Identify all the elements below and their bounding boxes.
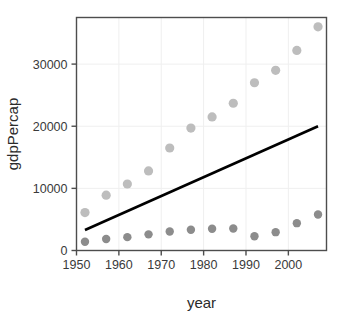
- data-point: [293, 219, 301, 227]
- data-point: [102, 191, 111, 200]
- data-point: [250, 232, 258, 240]
- data-point: [250, 78, 259, 87]
- x-axis-tick-label: 1950: [63, 258, 91, 272]
- y-axis-tick-label: 20000: [33, 120, 68, 134]
- y-axis-title: gdpPercap: [4, 98, 21, 171]
- data-point: [166, 227, 174, 235]
- chart-container: 0100002000030000195019601970198019902000…: [0, 0, 339, 316]
- data-point: [102, 235, 110, 243]
- scatter-plot: 0100002000030000195019601970198019902000…: [0, 0, 339, 316]
- x-axis-tick-label: 1990: [232, 258, 260, 272]
- data-point: [229, 99, 238, 108]
- plot-panel-background: [77, 18, 327, 251]
- data-point: [313, 22, 322, 31]
- data-point: [144, 230, 152, 238]
- data-point: [292, 46, 301, 55]
- data-point: [80, 208, 89, 217]
- x-axis-title: year: [187, 294, 216, 311]
- data-point: [81, 238, 89, 246]
- data-point: [229, 224, 237, 232]
- data-point: [207, 112, 216, 121]
- data-point: [186, 123, 195, 132]
- data-point: [165, 143, 174, 152]
- data-point: [271, 228, 279, 236]
- y-axis-tick-label: 30000: [33, 58, 68, 72]
- data-point: [123, 179, 132, 188]
- x-axis-tick-label: 2000: [274, 258, 302, 272]
- data-point: [187, 225, 195, 233]
- data-point: [271, 66, 280, 75]
- y-axis-tick-label: 10000: [33, 182, 68, 196]
- data-point: [314, 210, 322, 218]
- y-axis-tick-label: 0: [61, 244, 68, 258]
- data-point: [144, 166, 153, 175]
- x-axis-tick-label: 1960: [105, 258, 133, 272]
- data-point: [123, 233, 131, 241]
- x-axis-tick-label: 1970: [147, 258, 175, 272]
- data-point: [208, 225, 216, 233]
- x-axis-tick-label: 1980: [190, 258, 218, 272]
